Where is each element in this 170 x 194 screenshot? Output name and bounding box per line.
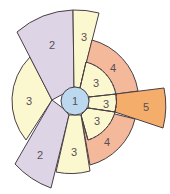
label-yellow-bottom: 3: [71, 146, 77, 158]
label-yellow-top: 3: [81, 31, 87, 43]
label-yellow-left: 3: [26, 95, 32, 107]
sunburst-diagram: 1 2 2 3 3 3 3 3 3 4 4 5: [0, 0, 170, 194]
label-salmon-lower: 4: [104, 136, 110, 148]
label-purple-upper: 2: [49, 39, 55, 51]
label-yellow-inner-lower: 3: [94, 115, 100, 127]
label-yellow-inner-upper: 3: [93, 77, 99, 89]
label-salmon-upper: 4: [110, 62, 116, 74]
label-orange-wedge: 5: [143, 101, 149, 113]
label-yellow-inner-middle: 3: [103, 98, 109, 110]
label-center: 1: [72, 95, 78, 107]
diagram-canvas: 1 2 2 3 3 3 3 3 3 4 4 5: [0, 0, 170, 194]
label-purple-lower: 2: [37, 149, 43, 161]
